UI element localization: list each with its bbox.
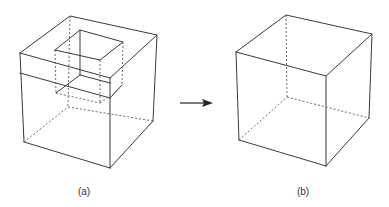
solid-cube-visible-edges	[236, 15, 372, 166]
inner-hole-edges	[20, 30, 123, 98]
panel-label-b: (b)	[297, 186, 309, 197]
transformation-arrow-icon	[180, 99, 213, 107]
solid-cube-hidden-edges	[239, 15, 369, 140]
cube-transformation-figure	[0, 0, 389, 207]
solid-cube	[236, 15, 372, 166]
cube-with-hole	[20, 16, 157, 168]
panel-label-a: (a)	[78, 186, 90, 197]
